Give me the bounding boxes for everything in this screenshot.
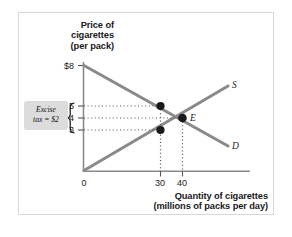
y-axis-title-line3: (per pack)	[30, 41, 114, 51]
marker-producer-price	[156, 126, 164, 134]
x-axis-title: Quantity of cigarettes (millions of pack…	[104, 191, 268, 212]
x-axis-title-line2: (millions of packs per day)	[104, 201, 268, 211]
equilibrium-label: E	[190, 113, 196, 124]
x-tick-label-0: 0	[74, 178, 94, 188]
supply-curve	[84, 86, 228, 171]
supply-curve-label: S	[232, 80, 237, 91]
marker-equilibrium	[178, 114, 187, 123]
excise-tax-label-line1: Excise	[24, 105, 68, 115]
y-tick-label-8: $8	[52, 61, 74, 71]
excise-tax-label-line2: tax = $2	[24, 115, 68, 125]
y-axis-title: Price of cigarettes (per pack)	[30, 20, 114, 51]
chart-canvas: Price of cigarettes (per pack) Quantity …	[0, 0, 292, 237]
x-axis-title-line1: Quantity of cigarettes	[104, 191, 268, 201]
marker-consumer-price	[156, 102, 164, 110]
y-axis-title-line2: cigarettes	[30, 30, 114, 40]
x-tick-label-40: 40	[172, 178, 192, 188]
y-axis-title-line1: Price of	[30, 20, 114, 30]
demand-curve-label: D	[232, 141, 239, 152]
excise-tax-callout-label: Excise tax = $2	[24, 105, 68, 125]
x-tick-label-30: 30	[150, 178, 170, 188]
